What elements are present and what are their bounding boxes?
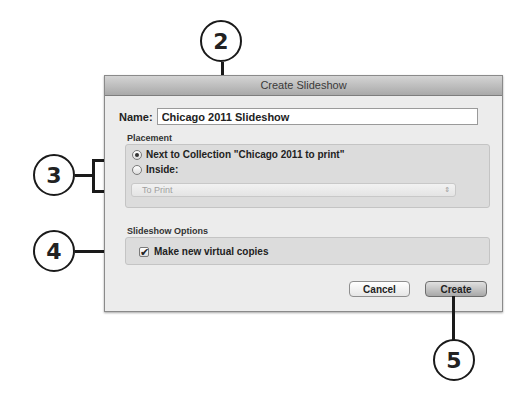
- slideshow-options-label: Slideshow Options: [127, 226, 208, 236]
- radio-next-to-label: Next to Collection "Chicago 2011 to prin…: [146, 149, 344, 160]
- dialog-title: Create Slideshow: [105, 76, 502, 96]
- radio-inside-label: Inside:: [146, 164, 178, 175]
- virtual-copies-label: Make new virtual copies: [154, 246, 269, 257]
- radio-unselected-icon[interactable]: [132, 165, 142, 175]
- callout-3: 3: [33, 154, 75, 196]
- callout-4: 4: [33, 230, 75, 272]
- placement-label: Placement: [127, 133, 172, 143]
- select-arrows-icon: ⇕: [444, 184, 450, 196]
- checkbox-checked-icon[interactable]: ✔: [139, 247, 149, 257]
- create-button[interactable]: Create: [425, 281, 487, 297]
- radio-inside[interactable]: Inside:: [132, 164, 178, 175]
- callout-2: 2: [200, 20, 242, 62]
- callout-5: 5: [433, 339, 475, 381]
- cancel-button[interactable]: Cancel: [349, 281, 410, 297]
- select-value: To Print: [142, 185, 173, 195]
- name-input[interactable]: [157, 108, 478, 125]
- callout-3-line: [75, 174, 93, 177]
- inside-collection-select[interactable]: To Print ⇕: [131, 183, 456, 197]
- name-row: Name:: [119, 108, 478, 125]
- name-label: Name:: [119, 111, 153, 123]
- callout-3-bracket: [92, 159, 95, 193]
- callout-5-line: [452, 296, 455, 340]
- radio-selected-icon[interactable]: [132, 150, 142, 160]
- virtual-copies-checkbox-row[interactable]: ✔ Make new virtual copies: [139, 246, 269, 257]
- radio-next-to-collection[interactable]: Next to Collection "Chicago 2011 to prin…: [132, 149, 344, 160]
- create-slideshow-dialog: Create Slideshow Name: Placement Next to…: [104, 75, 503, 312]
